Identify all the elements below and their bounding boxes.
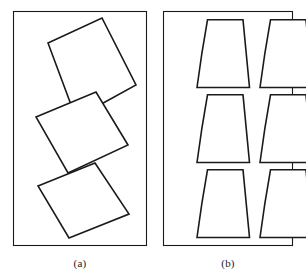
panel-b-caption: (b) <box>188 258 268 269</box>
panel-b-canvas <box>0 0 306 250</box>
panel-b <box>0 0 306 250</box>
panel-a-caption: (a) <box>40 258 120 269</box>
figure-container: (a) (b) <box>0 0 306 278</box>
